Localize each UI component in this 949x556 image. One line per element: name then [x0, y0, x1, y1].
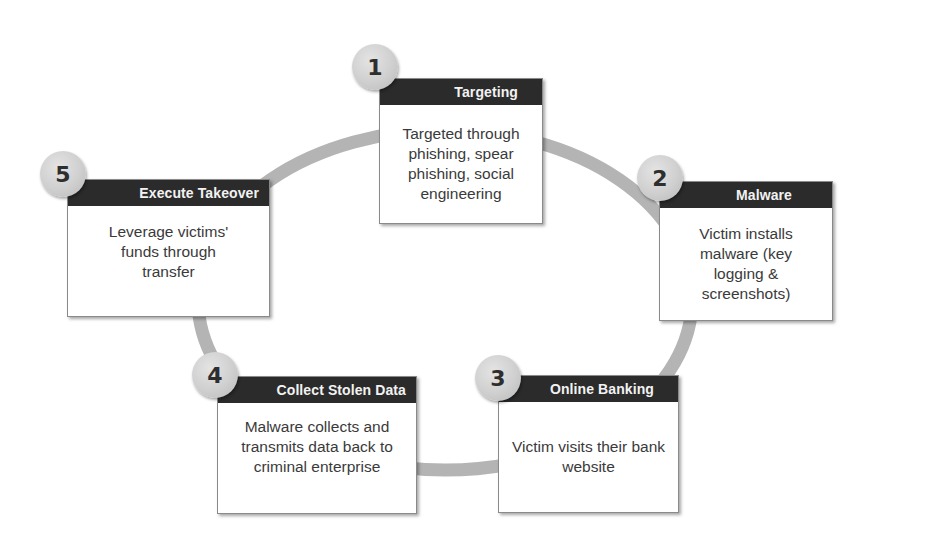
- step-card: Execute Takeover Leverage victims' funds…: [67, 179, 270, 317]
- step-title: Execute Takeover: [68, 180, 269, 206]
- step-title: Targeting: [380, 79, 542, 105]
- step-description: Victim installs malware (key logging & s…: [660, 208, 832, 320]
- step-title: Collect Stolen Data: [218, 377, 416, 403]
- step-description: Malware collects and transmits data back…: [218, 403, 416, 491]
- step-number-badge: 5: [40, 151, 86, 197]
- step-number-badge: 3: [475, 355, 521, 401]
- step-description: Victim visits their bank website: [499, 402, 678, 512]
- step-number-badge: 2: [637, 155, 683, 201]
- step-title: Online Banking: [499, 376, 678, 402]
- step-card: Collect Stolen Data Malware collects and…: [217, 376, 417, 514]
- step-card: Online Banking Victim visits their bank …: [498, 375, 679, 513]
- step-title: Malware: [660, 182, 832, 208]
- step-description: Leverage victims' funds through transfer: [68, 206, 269, 298]
- step-description: Targeted through phishing, spear phishin…: [380, 105, 542, 223]
- step-number-badge: 1: [352, 44, 398, 90]
- step-number-badge: 4: [192, 352, 238, 398]
- step-card: Targeting Targeted through phishing, spe…: [379, 78, 543, 224]
- step-card: Malware Victim installs malware (key log…: [659, 181, 833, 321]
